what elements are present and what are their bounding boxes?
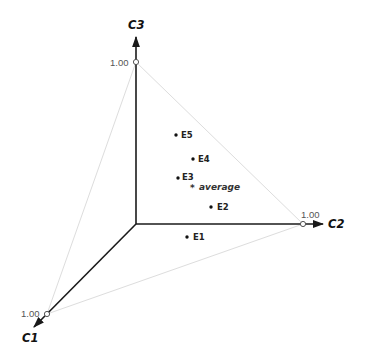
ternary-3d-plot: 1.00 1.00 1.00 C3 C2 C1 E5 E4 E3 E2 E1 *…	[0, 0, 367, 357]
point-marker	[174, 133, 177, 136]
tick-label-c1: 1.00	[21, 308, 40, 319]
unit-marker-c3	[133, 59, 138, 64]
data-point-e1: E1	[185, 232, 205, 242]
average-label: average	[199, 182, 240, 192]
point-label: E4	[198, 154, 210, 164]
tick-label-c3: 1.00	[110, 57, 129, 68]
point-marker	[176, 176, 179, 179]
data-point-e2: E2	[209, 202, 229, 212]
point-marker	[185, 235, 188, 238]
point-label: E1	[193, 232, 205, 242]
data-point-e4: E4	[191, 154, 210, 164]
triangle-edge-c3-c1	[47, 62, 136, 314]
point-marker	[209, 205, 212, 208]
point-label: E2	[217, 202, 229, 212]
axis-label-c3: C3	[128, 18, 144, 32]
axis-label-c1: C1	[22, 331, 38, 345]
unit-marker-c2	[300, 221, 305, 226]
data-point-e5: E5	[174, 130, 193, 140]
point-marker	[191, 157, 194, 160]
average-marker-icon: *	[190, 183, 195, 193]
point-label: E3	[182, 172, 194, 182]
data-point-e3: E3	[176, 172, 194, 182]
axes	[34, 37, 323, 327]
triangle-edge-c3-c2	[136, 62, 303, 224]
average-point: * average	[190, 182, 240, 193]
unit-marker-c1	[44, 311, 49, 316]
point-label: E5	[181, 130, 193, 140]
axis-c1	[34, 224, 136, 327]
tick-label-c2: 1.00	[301, 209, 320, 220]
triangle-edge-c1-c2	[47, 224, 303, 314]
axis-label-c2: C2	[328, 217, 344, 231]
